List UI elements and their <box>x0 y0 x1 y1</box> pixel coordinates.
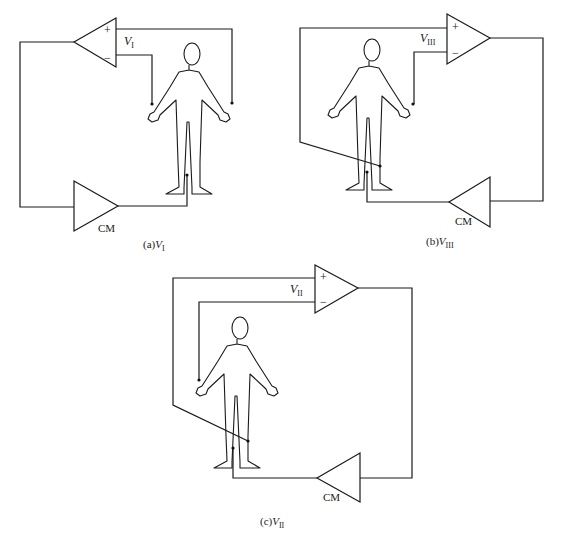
caption-c: (c)VII <box>260 515 285 530</box>
minus-sign: − <box>320 295 327 309</box>
minus-sign: − <box>104 51 111 65</box>
human-figure <box>148 43 230 194</box>
human-figure <box>328 39 410 190</box>
cm-label: CM <box>323 491 340 503</box>
panel-c: + − VII CM (c)VII <box>173 265 412 530</box>
plus-sign: + <box>452 20 459 34</box>
plus-sign: + <box>320 270 327 284</box>
cm-label: CM <box>98 222 115 234</box>
caption-a: (a)VI <box>143 238 165 253</box>
lead-label: VII <box>290 282 303 298</box>
lead-label: VIII <box>420 31 436 47</box>
cm-label: CM <box>455 215 472 227</box>
ecg-lead-diagram: + − VI CM (a)VI + − VIII CM <box>0 0 561 540</box>
caption-b: (b)VIII <box>426 235 454 250</box>
lead-label: VI <box>124 34 134 50</box>
human-figure <box>196 317 278 468</box>
panel-b: + − VIII CM (b)VIII <box>300 14 543 250</box>
plus-sign: + <box>104 23 111 37</box>
minus-sign: − <box>452 46 459 60</box>
panel-a: + − VI CM (a)VI <box>20 18 234 253</box>
